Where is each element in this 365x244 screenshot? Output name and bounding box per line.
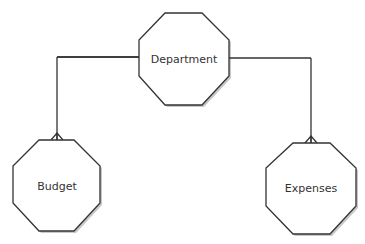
node-budget-label: Budget <box>37 180 77 193</box>
crow-foot-icon <box>305 136 317 143</box>
crow-foot-icon <box>51 133 63 140</box>
node-department-label: Department <box>151 53 218 66</box>
node-expenses-label: Expenses <box>285 182 337 195</box>
er-diagram <box>0 0 365 244</box>
